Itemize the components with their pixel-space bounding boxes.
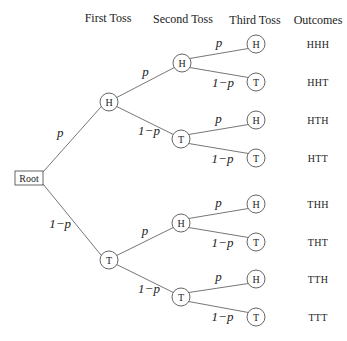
node-label: T bbox=[253, 153, 259, 164]
node-label: H bbox=[252, 115, 259, 126]
node-label: T bbox=[253, 77, 259, 88]
third-toss-node-h: H bbox=[247, 111, 265, 129]
second-toss-node-t: T bbox=[172, 288, 190, 306]
third-toss-node-t: T bbox=[247, 149, 265, 167]
probability-tree-diagram: First Toss Second Toss Third Toss Outcom… bbox=[0, 0, 347, 341]
edge-label-1-minus-p: 1−p bbox=[212, 151, 234, 166]
edge-label-1-minus-p: 1−p bbox=[138, 123, 160, 138]
edge-label-p: p bbox=[214, 111, 222, 126]
node-label: H bbox=[178, 58, 185, 69]
outcome-htt: HTT bbox=[308, 153, 328, 164]
tree-edge bbox=[190, 49, 249, 59]
tree-edge bbox=[189, 209, 249, 219]
header-second-toss: Second Toss bbox=[153, 12, 213, 26]
edge-label-1-minus-p: 1−p bbox=[49, 216, 71, 231]
edge-label-p: p bbox=[56, 125, 64, 140]
node-label: H bbox=[252, 274, 259, 285]
first-toss-node-h: H bbox=[100, 93, 118, 111]
root-node: Root bbox=[15, 171, 43, 185]
header-outcomes: Outcomes bbox=[294, 13, 343, 27]
second-toss-node-h: H bbox=[173, 54, 191, 72]
node-label: H bbox=[105, 97, 112, 108]
outcome-thh: THH bbox=[307, 199, 328, 210]
tree-edge bbox=[189, 284, 249, 293]
tree-edge bbox=[189, 125, 249, 135]
edge-label-p: p bbox=[214, 195, 222, 210]
header-first-toss: First Toss bbox=[85, 11, 132, 25]
second-toss-node-h: H bbox=[172, 214, 190, 232]
edge-label-1-minus-p: 1−p bbox=[138, 281, 160, 296]
tree-edge bbox=[43, 107, 101, 173]
outcome-hhh: HHH bbox=[307, 39, 330, 50]
node-label: T bbox=[253, 312, 259, 323]
edge-label-p: p bbox=[214, 269, 222, 284]
header-third-toss: Third Toss bbox=[229, 13, 281, 27]
third-toss-node-t: T bbox=[247, 73, 265, 91]
edge-label-p: p bbox=[141, 64, 149, 79]
edge-label-1-minus-p: 1−p bbox=[212, 75, 234, 90]
outcome-hht: HHT bbox=[307, 77, 328, 88]
third-toss-node-h: H bbox=[247, 195, 265, 213]
third-toss-node-t: T bbox=[247, 308, 265, 326]
edge-label-1-minus-p: 1−p bbox=[212, 235, 234, 250]
outcome-tth: TTH bbox=[308, 274, 328, 285]
outcome-tht: THT bbox=[308, 237, 328, 248]
first-toss-node-t: T bbox=[100, 251, 118, 269]
root-label: Root bbox=[19, 173, 39, 184]
outcomes-column: HHHHHTHTHHTTTHHTHTTTHTTT bbox=[307, 39, 330, 323]
edge-labels: p1−pp1−pp1−pp1−pp1−pp1−pp1−p bbox=[49, 35, 234, 325]
node-label: T bbox=[253, 237, 259, 248]
column-headers: First Toss Second Toss Third Toss Outcom… bbox=[85, 11, 343, 27]
third-toss-node-h: H bbox=[247, 35, 265, 53]
node-label: T bbox=[178, 292, 184, 303]
node-label: T bbox=[106, 255, 112, 266]
edge-label-p: p bbox=[215, 35, 223, 50]
node-label: H bbox=[177, 218, 184, 229]
outcome-ttt: TTT bbox=[308, 312, 327, 323]
edge-label-1-minus-p: 1−p bbox=[212, 309, 234, 324]
node-label: H bbox=[252, 199, 259, 210]
outcome-hth: HTH bbox=[307, 115, 328, 126]
node-label: T bbox=[178, 134, 184, 145]
third-toss-node-t: T bbox=[247, 233, 265, 251]
node-label: H bbox=[252, 39, 259, 50]
third-toss-node-h: H bbox=[247, 270, 265, 288]
second-toss-node-t: T bbox=[172, 130, 190, 148]
edge-label-p: p bbox=[141, 223, 149, 238]
